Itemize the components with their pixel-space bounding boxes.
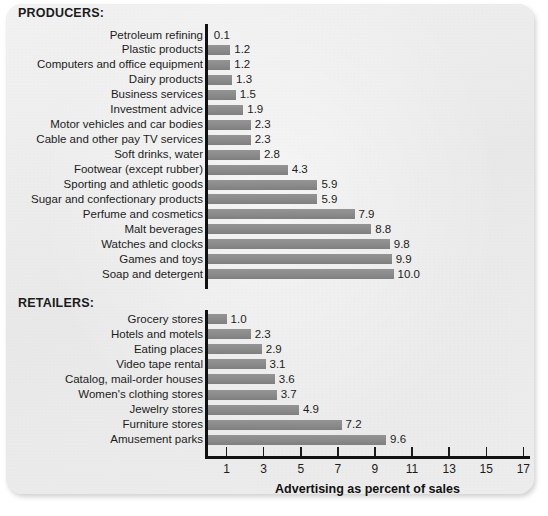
bar-value-label: 7.9	[359, 208, 375, 220]
bar	[208, 435, 386, 445]
category-label: Plastic products	[122, 43, 203, 56]
category-label: Cable and other pay TV services	[36, 133, 203, 146]
category-label: Business services	[111, 88, 203, 101]
bar	[208, 180, 317, 190]
bar-value-label: 8.8	[375, 223, 391, 235]
category-label: Jewelry stores	[130, 403, 204, 416]
section-heading-retailers: RETAILERS:	[18, 296, 94, 310]
bar-value-label: 2.3	[255, 118, 271, 130]
bar-value-label: 4.9	[303, 403, 319, 415]
bar-value-label: 1.0	[231, 313, 247, 325]
bar-value-label: 0.1	[214, 29, 230, 41]
bar-value-label: 10.0	[398, 268, 420, 280]
bar	[208, 209, 355, 219]
category-label: Motor vehicles and car bodies	[50, 118, 203, 131]
x-axis-tick	[448, 447, 450, 456]
bar	[208, 359, 266, 369]
bar	[208, 45, 230, 55]
category-label: Malt beverages	[124, 223, 203, 236]
x-axis-title: Advertising as percent of sales	[205, 482, 530, 496]
bar	[208, 405, 299, 415]
chart-page: PRODUCERS: RETAILERS: Advertising as per…	[0, 0, 548, 516]
x-axis-tick	[523, 447, 525, 456]
category-label: Soft drinks, water	[114, 148, 203, 161]
x-axis-tick-label: 3	[260, 462, 267, 476]
category-label: Computers and office equipment	[37, 58, 203, 71]
category-label: Perfume and cosmetics	[83, 208, 203, 221]
bar-value-label: 2.8	[264, 148, 280, 160]
bar	[208, 420, 342, 430]
x-axis-tick-label: 7	[335, 462, 342, 476]
bar-value-label: 3.1	[270, 358, 286, 370]
category-label: Investment advice	[110, 103, 203, 116]
category-label: Amusement parks	[110, 433, 203, 446]
bar-value-label: 2.9	[266, 343, 282, 355]
bar-value-label: 1.2	[234, 58, 250, 70]
bar	[208, 269, 394, 279]
bar	[208, 120, 251, 130]
bar	[208, 30, 210, 40]
bar-value-label: 5.9	[321, 193, 337, 205]
category-label: Sugar and confectionary products	[31, 193, 203, 206]
bar	[208, 105, 243, 115]
category-label: Catalog, mail-order houses	[65, 373, 203, 386]
bar	[208, 135, 251, 145]
x-axis-tick-label: 1	[223, 462, 230, 476]
bar	[208, 165, 288, 175]
bar	[208, 329, 251, 339]
x-axis-tick-label: 13	[442, 462, 455, 476]
bar-value-label: 7.2	[346, 418, 362, 430]
section-heading-producers: PRODUCERS:	[18, 6, 104, 20]
bar	[208, 314, 227, 324]
category-label: Video tape rental	[116, 358, 203, 371]
chart-plot-area: PRODUCERS: RETAILERS: Advertising as per…	[0, 0, 548, 516]
category-label: Hotels and motels	[111, 328, 203, 341]
category-label: Soap and detergent	[102, 268, 203, 281]
bar-value-label: 5.9	[321, 178, 337, 190]
category-label: Women's clothing stores	[78, 388, 203, 401]
x-axis-tick	[300, 447, 302, 456]
bar	[208, 194, 317, 204]
category-label: Grocery stores	[128, 313, 203, 326]
x-axis-tick	[337, 447, 339, 456]
bar-value-label: 2.3	[255, 328, 271, 340]
bar-value-label: 1.2	[234, 43, 250, 55]
bar-value-label: 9.8	[394, 238, 410, 250]
bar-value-label: 4.3	[292, 163, 308, 175]
bar	[208, 224, 371, 234]
bar-value-label: 2.3	[255, 133, 271, 145]
bar	[208, 60, 230, 70]
category-label: Sporting and athletic goods	[64, 178, 203, 191]
bar-value-label: 1.9	[247, 103, 263, 115]
bar-value-label: 3.7	[281, 388, 297, 400]
category-label: Footwear (except rubber)	[74, 163, 203, 176]
bar	[208, 239, 390, 249]
x-axis-tick	[411, 447, 413, 456]
bar	[208, 150, 260, 160]
x-axis-tick-label: 11	[406, 462, 418, 476]
x-axis-tick-label: 9	[372, 462, 379, 476]
x-axis-line	[205, 456, 530, 459]
bar	[208, 90, 236, 100]
category-label: Games and toys	[119, 253, 203, 266]
bar	[208, 390, 277, 400]
bar	[208, 254, 392, 264]
category-label: Dairy products	[129, 73, 203, 86]
bar	[208, 75, 232, 85]
x-axis-tick	[226, 447, 228, 456]
x-axis-tick	[374, 447, 376, 456]
x-axis-tick-label: 17	[517, 462, 530, 476]
category-label: Petroleum refining	[110, 29, 203, 42]
bar-value-label: 1.5	[240, 88, 256, 100]
bar-value-label: 9.9	[396, 253, 412, 265]
x-axis-tick-label: 15	[480, 462, 493, 476]
bar-value-label: 9.6	[390, 433, 406, 445]
category-label: Furniture stores	[122, 418, 203, 431]
bar	[208, 374, 275, 384]
category-label: Eating places	[134, 343, 203, 356]
x-axis-tick	[486, 447, 488, 456]
x-axis-tick-label: 5	[297, 462, 304, 476]
bar	[208, 344, 262, 354]
bar-value-label: 3.6	[279, 373, 295, 385]
bar-value-label: 1.3	[236, 73, 252, 85]
